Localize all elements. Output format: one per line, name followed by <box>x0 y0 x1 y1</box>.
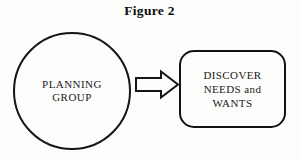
figure-diagram: Figure 2 PLANNING GROUP DISCOVER NEEDS a… <box>0 0 299 160</box>
block-arrow-icon <box>134 69 180 100</box>
figure-title: Figure 2 <box>0 3 299 19</box>
node-discover-needs-wants: DISCOVER NEEDS and WANTS <box>179 50 286 128</box>
node-planning-group-label: PLANNING GROUP <box>42 78 102 105</box>
arrow-planning-to-discover <box>134 69 180 100</box>
node-discover-needs-wants-label: DISCOVER NEEDS and WANTS <box>203 68 261 111</box>
node-planning-group: PLANNING GROUP <box>13 32 131 150</box>
